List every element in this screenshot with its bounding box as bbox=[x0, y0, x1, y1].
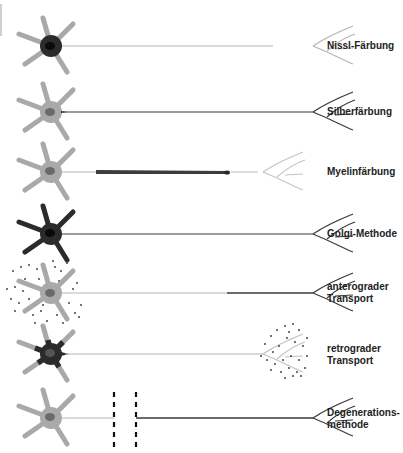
label-myelin: Myelinfärbung bbox=[327, 166, 395, 178]
neuron-myelin bbox=[19, 144, 305, 198]
label-degeneration: Degenerations-methode bbox=[327, 407, 400, 431]
label-retrograde: retrograderTransport bbox=[327, 343, 381, 367]
lesion-cut-marks bbox=[114, 392, 136, 448]
neuron-degeneration bbox=[19, 390, 355, 448]
neuron-retrograde bbox=[19, 323, 308, 380]
neuron-nissl bbox=[19, 18, 355, 72]
neuron-methods-diagram bbox=[0, 0, 403, 453]
label-silber: Silberfärbung bbox=[327, 106, 392, 118]
label-nissl: Nissl-Färbung bbox=[327, 40, 394, 52]
neuron-silber bbox=[19, 84, 355, 138]
label-golgi: Golgi-Methode bbox=[327, 228, 397, 240]
label-anterograde: anterograderTransport bbox=[327, 281, 389, 305]
neuron-golgi bbox=[19, 206, 355, 260]
neuron-anterograde bbox=[6, 260, 355, 324]
